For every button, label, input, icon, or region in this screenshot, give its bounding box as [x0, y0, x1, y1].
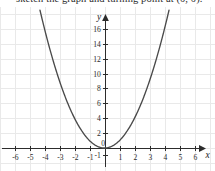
x-axis-title: x	[204, 150, 210, 160]
caption-strip: sketch the graph and turning point at (0…	[0, 0, 215, 7]
x-tick-label: -4	[42, 153, 49, 162]
x-tick-label: -6	[12, 153, 19, 162]
y-tick-label: 6	[97, 99, 101, 108]
y-axis-title: y	[96, 12, 102, 22]
y-axis-tick-labels: -1246810121416	[93, 25, 101, 160]
y-tick-label: 10	[93, 70, 101, 79]
x-tick-label: 4	[164, 153, 168, 162]
x-tick-label: -5	[27, 153, 34, 162]
x-tick-label: 5	[179, 153, 183, 162]
parabola-curve	[40, 10, 169, 148]
axis-titles-group: yx	[96, 12, 210, 160]
x-tick-label: 2	[134, 153, 138, 162]
y-tick-label: 16	[93, 25, 101, 34]
graph-figure: sketch the graph and turning point at (0…	[0, 0, 215, 171]
caption-text: sketch the graph and turning point at (0…	[16, 0, 202, 4]
y-tick-label: 14	[93, 40, 101, 49]
parabola-path	[40, 10, 169, 148]
x-tick-label: -3	[57, 153, 64, 162]
plot-area: -6-5-4-3-2-10123456 -1246810121416 yx	[0, 7, 215, 171]
y-tick-label: 2	[97, 129, 101, 138]
y-axis-arrowhead	[102, 14, 109, 21]
y-tick-label: 4	[97, 114, 101, 123]
y-tick-label: 12	[93, 55, 101, 64]
y-tick-label: -1	[95, 151, 102, 160]
x-tick-label: -1	[87, 153, 94, 162]
x-tick-label: 6	[194, 153, 198, 162]
x-tick-label: 1	[119, 153, 123, 162]
y-tick-label: 8	[97, 84, 101, 93]
x-tick-label: 3	[149, 153, 153, 162]
x-tick-label: -2	[72, 153, 79, 162]
coordinate-plane-svg: -6-5-4-3-2-10123456 -1246810121416 yx	[0, 7, 215, 171]
x-tick-label: 0	[101, 139, 105, 148]
